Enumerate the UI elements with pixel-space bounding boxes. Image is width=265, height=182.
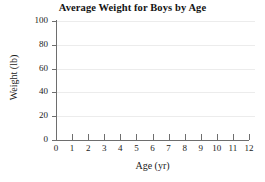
x-tick-2 [88, 134, 89, 140]
x-tick-7 [169, 134, 170, 140]
x-tick-3 [104, 134, 105, 140]
y-tick-label-wrap-100: 100 [0, 21, 265, 22]
x-tick-6 [153, 134, 154, 140]
x-tick-1 [72, 134, 73, 140]
y-tick-label-wrap-60: 60 [0, 69, 265, 70]
x-tick-8 [185, 134, 186, 140]
y-axis-title: Weight (lb) [8, 38, 19, 118]
y-tick-label-wrap-0: 0 [0, 140, 265, 141]
x-tick-10 [217, 134, 218, 140]
x-tick-9 [201, 134, 202, 140]
x-tick-4 [120, 134, 121, 140]
chart-container: Average Weight for Boys by Age 100 80 60… [0, 0, 265, 182]
y-tick-label-0: 0 [8, 135, 48, 144]
chart-title: Average Weight for Boys by Age [0, 2, 265, 13]
y-tick-label-100: 100 [8, 16, 48, 25]
x-tick-11 [233, 134, 234, 140]
x-tick-5 [136, 134, 137, 140]
y-tick-label-wrap-80: 80 [0, 45, 265, 46]
y-axis-line [56, 20, 57, 141]
x-tick-12 [249, 134, 250, 140]
x-tick-0 [56, 134, 57, 140]
plot-area [56, 21, 249, 140]
x-axis-title: Age (yr) [56, 160, 249, 171]
y-tick-label-wrap-20: 20 [0, 116, 265, 117]
y-tick-label-wrap-40: 40 [0, 92, 265, 93]
x-tick-label-12: 12 [239, 143, 259, 153]
